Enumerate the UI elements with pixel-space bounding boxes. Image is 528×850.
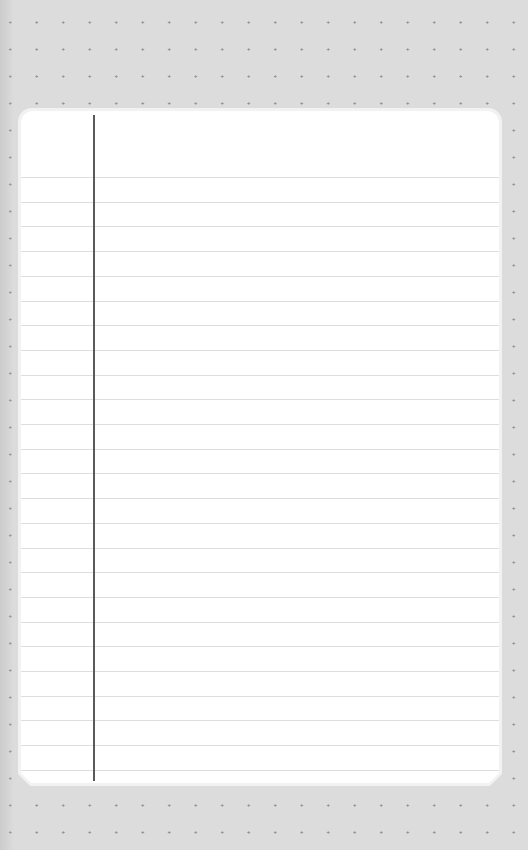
background-shade	[0, 0, 14, 850]
notepad-title[interactable]	[101, 121, 489, 171]
margin-line	[93, 115, 95, 781]
notepad-paper[interactable]	[21, 111, 499, 783]
